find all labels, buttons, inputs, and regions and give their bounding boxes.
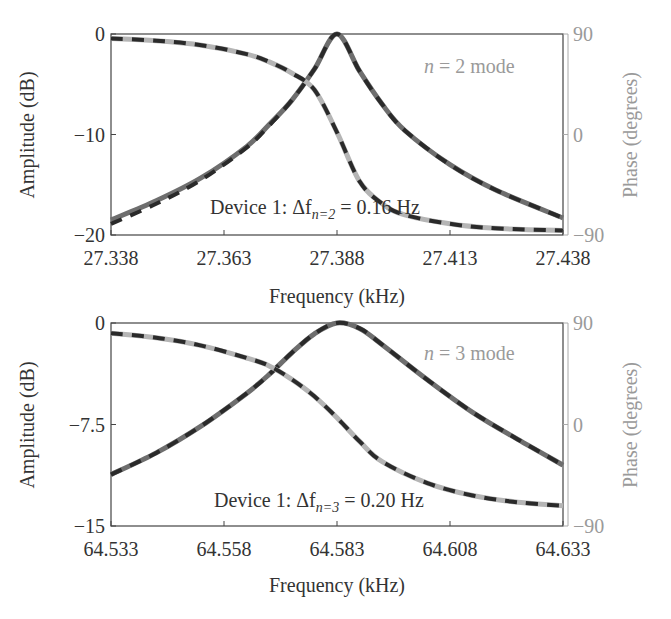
figure: 27.33827.36327.38827.41327.438 0−10−20 9… <box>0 0 671 619</box>
panel-n2-mode: 27.33827.36327.38827.41327.438 0−10−20 9… <box>16 23 642 308</box>
x-tick-label: 64.583 <box>310 538 365 560</box>
x-tick-label: 64.533 <box>84 538 139 560</box>
y-ticks-right: 900−90 <box>563 23 604 246</box>
x-tick-label: 64.633 <box>536 538 591 560</box>
y-ticks-left: 0−10−20 <box>74 23 116 246</box>
x-tick-label: 27.363 <box>197 247 252 269</box>
x-tick-label: 27.388 <box>310 247 365 269</box>
x-ticks: 64.53364.55864.58364.60864.633 <box>84 521 591 560</box>
linewidth-annotation: Device 1: Δfn=2 = 0.16 Hz <box>210 196 420 222</box>
y-tick-label-right: 0 <box>573 414 583 436</box>
y-tick-label-right: 90 <box>573 23 593 45</box>
x-axis-title: Frequency (kHz) <box>269 574 405 597</box>
x-tick-label: 64.558 <box>197 538 252 560</box>
x-ticks: 27.33827.36327.38827.41327.438 <box>84 230 591 269</box>
y-tick-label-right: −90 <box>573 515 604 537</box>
y-ticks-right: 900−90 <box>563 312 604 537</box>
panel-n3-mode: 64.53364.55864.58364.60864.633 0−7.5−15 … <box>16 312 642 597</box>
x-tick-label: 64.608 <box>423 538 478 560</box>
x-tick-label: 27.338 <box>84 247 139 269</box>
y-tick-label-right: −90 <box>573 224 604 246</box>
y-axis-title-right: Phase (degrees) <box>619 72 642 198</box>
mode-label: n = 2 mode <box>424 55 515 77</box>
y-axis-title-right: Phase (degrees) <box>619 362 642 488</box>
x-tick-label: 27.438 <box>536 247 591 269</box>
y-tick-label: −20 <box>74 224 105 246</box>
y-tick-label-right: 0 <box>573 124 583 146</box>
mode-label: n = 3 mode <box>424 342 515 364</box>
y-tick-label: −7.5 <box>69 414 105 436</box>
y-tick-label: −10 <box>74 124 105 146</box>
y-tick-label: 0 <box>95 23 105 45</box>
y-tick-label: −15 <box>74 515 105 537</box>
y-tick-label-right: 90 <box>573 312 593 334</box>
x-axis-title: Frequency (kHz) <box>269 285 405 308</box>
x-tick-label: 27.413 <box>423 247 478 269</box>
y-axis-title-left: Amplitude (dB) <box>16 361 39 488</box>
y-axis-title-left: Amplitude (dB) <box>16 71 39 198</box>
linewidth-annotation: Device 1: Δfn=3 = 0.20 Hz <box>214 489 424 515</box>
y-tick-label: 0 <box>95 312 105 334</box>
y-ticks-left: 0−7.5−15 <box>69 312 116 537</box>
